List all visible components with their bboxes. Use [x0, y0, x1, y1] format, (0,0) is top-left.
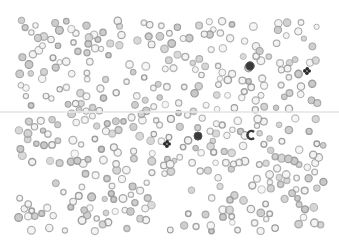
red-blood-cell	[219, 45, 227, 53]
red-blood-cell	[19, 54, 26, 61]
red-blood-cell	[228, 149, 235, 156]
red-blood-cell	[75, 193, 82, 200]
red-blood-cell	[223, 159, 230, 166]
red-blood-cell	[298, 20, 304, 26]
red-blood-cell	[41, 142, 48, 149]
red-blood-cell	[39, 43, 45, 49]
red-blood-cell	[177, 154, 183, 160]
red-blood-cell	[28, 71, 34, 77]
red-blood-cell	[176, 123, 183, 130]
red-blood-cell	[46, 224, 53, 231]
red-blood-cell	[272, 154, 278, 160]
red-blood-cell	[39, 210, 45, 216]
red-blood-cell	[49, 96, 54, 101]
red-blood-cell	[312, 169, 318, 175]
red-blood-cell	[25, 213, 32, 220]
red-blood-cell	[144, 195, 151, 202]
red-blood-cell	[257, 209, 265, 217]
red-blood-cell	[23, 94, 28, 99]
red-blood-cell	[106, 53, 111, 58]
red-blood-cell	[267, 136, 272, 141]
red-blood-cell	[124, 226, 130, 232]
red-blood-cell	[87, 58, 94, 65]
red-blood-cell	[100, 95, 106, 101]
red-blood-cell	[33, 23, 38, 28]
red-blood-cell	[236, 159, 243, 166]
red-blood-cell	[55, 43, 61, 49]
red-blood-cell	[46, 157, 53, 164]
red-blood-cell	[81, 207, 88, 214]
red-blood-cell	[92, 172, 99, 179]
red-blood-cell	[285, 126, 292, 133]
red-blood-cell	[203, 102, 209, 108]
red-blood-cell	[91, 45, 98, 52]
red-blood-cell	[240, 53, 246, 59]
red-blood-cell	[248, 84, 255, 91]
red-blood-cell	[221, 148, 227, 154]
red-blood-cell	[98, 46, 103, 51]
red-blood-cell	[72, 100, 78, 106]
red-blood-cell	[220, 214, 227, 221]
red-blood-cell	[134, 37, 142, 45]
red-blood-cell	[295, 28, 302, 35]
red-blood-cell	[44, 204, 51, 211]
red-blood-cell	[274, 26, 281, 33]
red-blood-cell	[167, 227, 173, 233]
red-blood-cell	[28, 226, 36, 234]
red-blood-cell	[266, 171, 274, 179]
red-blood-cell	[215, 174, 222, 181]
red-blood-cell	[24, 130, 32, 138]
red-blood-cell	[166, 30, 172, 36]
red-blood-cell	[241, 38, 247, 44]
red-blood-cell	[249, 182, 256, 189]
red-blood-cell	[131, 148, 137, 154]
red-blood-cell	[63, 84, 69, 90]
red-blood-cell	[292, 57, 298, 63]
red-blood-cell	[198, 149, 205, 156]
red-blood-cell	[208, 47, 214, 53]
red-blood-cell	[301, 36, 306, 41]
red-blood-cell	[314, 141, 320, 147]
red-blood-cell	[216, 82, 222, 88]
red-blood-cell	[283, 19, 291, 27]
red-blood-cell	[314, 100, 321, 107]
red-blood-cell	[295, 70, 302, 77]
red-blood-cell	[71, 40, 76, 45]
red-blood-cell	[109, 183, 115, 189]
red-blood-cell	[18, 82, 24, 88]
red-blood-cell	[281, 94, 287, 100]
red-blood-cell	[45, 131, 51, 137]
red-blood-cell	[132, 200, 138, 206]
red-blood-cell	[113, 90, 119, 96]
red-blood-cell	[213, 160, 219, 166]
red-blood-cell	[90, 105, 96, 111]
red-blood-cell	[17, 146, 24, 153]
red-blood-cell	[166, 134, 172, 140]
red-blood-cell	[88, 193, 96, 201]
red-blood-cell	[246, 79, 251, 84]
red-blood-cell	[111, 197, 117, 203]
red-blood-cell	[180, 144, 185, 149]
red-blood-cell	[29, 30, 34, 35]
red-blood-cell	[199, 72, 205, 78]
red-blood-cell	[263, 201, 269, 207]
red-blood-cell	[98, 146, 104, 152]
red-blood-cell	[272, 225, 279, 232]
red-blood-cell	[29, 158, 36, 165]
red-blood-cell	[147, 137, 155, 145]
red-blood-cell	[93, 123, 99, 129]
red-blood-cell	[102, 196, 107, 201]
red-blood-cell	[62, 228, 67, 233]
red-blood-cell	[149, 150, 155, 156]
red-blood-cell	[155, 81, 161, 87]
red-blood-cell	[142, 205, 149, 212]
red-blood-cell	[284, 65, 291, 72]
red-blood-cell	[128, 114, 135, 121]
red-blood-cell	[199, 115, 205, 121]
red-blood-cell	[18, 17, 25, 24]
red-blood-cell	[25, 118, 32, 125]
red-blood-cell	[219, 69, 226, 76]
red-blood-cell	[283, 33, 289, 39]
red-blood-cell	[162, 66, 168, 72]
red-blood-cell	[69, 136, 77, 144]
